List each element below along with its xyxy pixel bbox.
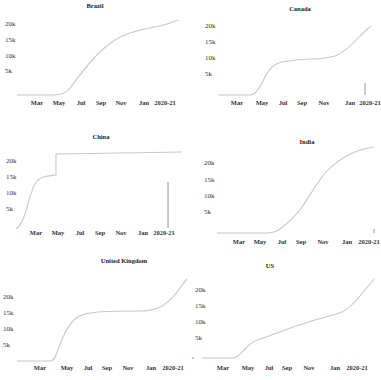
x-tick: Jan	[139, 99, 149, 106]
chart-panel-us: US 20k 15k 10k 5k Mar May Jul Sep Nov Ja…	[190, 250, 380, 380]
x-tick: 2020-21	[153, 229, 175, 236]
chart-panel-china: China 20k 15k 10k 5k Mar May Jul Sep Nov…	[0, 125, 190, 250]
x-tick: May	[53, 99, 66, 106]
x-tick: Jul	[77, 99, 86, 106]
x-tick: 2020-21	[358, 238, 380, 245]
data-line	[217, 147, 374, 233]
x-tick: Mar	[30, 229, 42, 236]
x-tick: Sep	[102, 364, 112, 371]
x-tick: Sep	[95, 229, 105, 236]
x-tick: May	[256, 99, 269, 106]
x-tick: Mar	[34, 364, 46, 371]
x-tick: May	[254, 238, 267, 245]
x-tick: May	[52, 229, 65, 236]
x-tick: Sep	[297, 99, 307, 106]
x-tick: Nov	[317, 238, 328, 245]
data-line	[16, 152, 182, 229]
x-tick: Jul	[76, 229, 85, 236]
x-tick: Mar	[231, 99, 243, 106]
x-tick: 2020-21	[346, 364, 368, 371]
chart-panel-canada: Canada 20k 15k 10k 5k Mar May Jul Sep No…	[190, 0, 380, 125]
x-tick: Jan	[342, 238, 352, 245]
x-tick: Nov	[115, 229, 126, 236]
data-line	[17, 20, 178, 95]
x-tick: Nov	[122, 364, 133, 371]
chart-panel-united-kingdom: United Kingdom 20k 15k 10k 5k Mar May Ju…	[0, 250, 190, 380]
x-tick: Nov	[303, 364, 314, 371]
x-tick: May	[61, 364, 74, 371]
chart-panel-brazil: Brazil 20k 15k 10k 5k Mar May Jul Sep No…	[0, 0, 190, 125]
x-tick: 2020-21	[359, 99, 381, 106]
line-plot	[0, 0, 190, 125]
data-line	[202, 279, 374, 358]
x-tick: Mar	[217, 364, 229, 371]
x-tick: 2020-21	[154, 99, 176, 106]
line-plot	[0, 250, 190, 380]
x-tick: Sep	[282, 364, 292, 371]
x-tick: Nov	[318, 99, 329, 106]
x-tick: May	[242, 364, 255, 371]
x-tick: Mar	[233, 238, 245, 245]
data-line	[218, 26, 371, 95]
x-tick: Jul	[279, 99, 288, 106]
x-tick: Jan	[345, 99, 355, 106]
line-plot	[190, 250, 380, 380]
x-tick: Jul	[84, 364, 93, 371]
x-tick: Mar	[31, 99, 43, 106]
chart-panel-india: India 20k 15k 10k 5k Mar May Jul Sep Nov…	[190, 125, 380, 250]
data-line	[17, 279, 187, 361]
x-tick: Jan	[138, 229, 148, 236]
x-tick: 2020-21	[162, 364, 184, 371]
x-tick: Jan	[146, 364, 156, 371]
x-tick: Sep	[296, 238, 306, 245]
x-tick: Nov	[115, 99, 126, 106]
x-tick: Jul	[265, 364, 274, 371]
x-tick: Sep	[96, 99, 106, 106]
line-plot	[190, 0, 380, 125]
line-plot	[190, 125, 380, 250]
x-tick: Jan	[330, 364, 340, 371]
x-tick: Jul	[278, 238, 287, 245]
